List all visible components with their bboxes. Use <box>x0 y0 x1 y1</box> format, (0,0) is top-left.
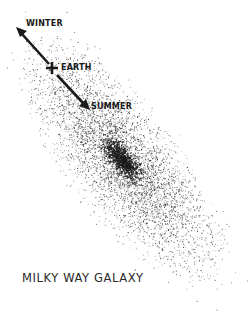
galaxy-diagram: WINTER EARTH SUMMER MILKY WAY GALAXY <box>0 0 248 313</box>
summer-label: SUMMER <box>91 103 132 111</box>
diagram-title: MILKY WAY GALAXY <box>22 273 144 285</box>
direction-arrows <box>0 0 248 313</box>
earth-label: EARTH <box>61 64 92 72</box>
arrow-down-right-icon <box>57 75 90 110</box>
arrow-up-left-icon <box>16 27 49 64</box>
winter-label: WINTER <box>26 20 63 28</box>
